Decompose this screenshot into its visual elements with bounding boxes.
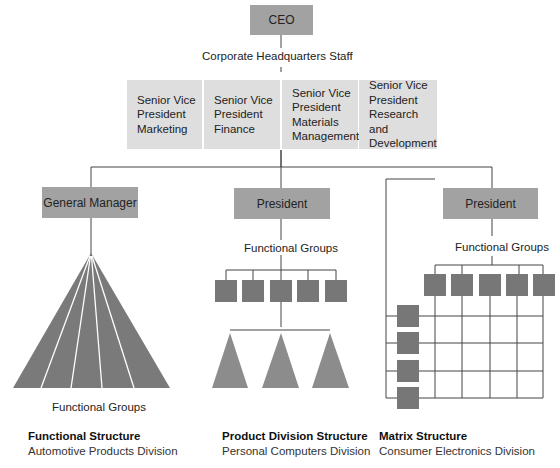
svp-materials-management: Senior Vice President Materials Manageme…	[282, 80, 358, 149]
caption-subtitle-product: Personal Computers Division	[222, 445, 370, 457]
caption-title-matrix: Matrix Structure	[379, 430, 467, 442]
svp-line: Senior Vice	[292, 86, 359, 101]
svp-line: President	[292, 100, 359, 115]
product-triangles	[212, 333, 349, 388]
matrix-functional-squares	[424, 274, 555, 296]
svp-line: Management	[292, 129, 359, 144]
svp-line: President	[137, 107, 196, 122]
president-label: President	[465, 197, 516, 211]
caption-subtitle-functional: Automotive Products Division	[28, 445, 178, 457]
caption-title-product: Product Division Structure	[222, 430, 368, 442]
svp-line: Senior Vice	[137, 93, 196, 108]
hq-staff-label: Corporate Headquarters Staff	[202, 50, 353, 62]
president-product-box: President	[234, 188, 330, 219]
svp-line: President	[214, 107, 273, 122]
svp-line: Senior Vice	[369, 78, 437, 93]
org-chart-connectors	[0, 0, 560, 468]
svp-line: Marketing	[137, 122, 196, 137]
functional-groups-label: Functional Groups	[455, 241, 549, 253]
svp-line: President	[369, 93, 437, 108]
general-manager-box: General Manager	[42, 187, 138, 218]
matrix-product-squares	[397, 305, 419, 409]
ceo-box: CEO	[250, 5, 313, 35]
product-functional-squares	[215, 280, 347, 302]
svp-research-development: Senior Vice President Research and Devel…	[359, 80, 437, 149]
svp-line: Finance	[214, 122, 273, 137]
president-matrix-box: President	[443, 188, 538, 219]
caption-subtitle-matrix: Consumer Electronics Division	[379, 445, 535, 457]
functional-pyramid	[13, 253, 170, 388]
ceo-label: CEO	[268, 13, 294, 27]
svp-marketing: Senior Vice President Marketing	[127, 80, 202, 149]
svp-line: Development	[369, 136, 437, 151]
caption-title-functional: Functional Structure	[28, 430, 140, 442]
president-label: President	[257, 197, 308, 211]
functional-groups-label: Functional Groups	[52, 401, 146, 413]
svp-finance: Senior Vice President Finance	[204, 80, 280, 149]
svp-line: Senior Vice	[214, 93, 273, 108]
svp-line: Research and	[369, 107, 437, 136]
svp-line: Materials	[292, 115, 359, 130]
functional-groups-label: Functional Groups	[244, 242, 338, 254]
general-manager-label: General Manager	[43, 196, 136, 210]
